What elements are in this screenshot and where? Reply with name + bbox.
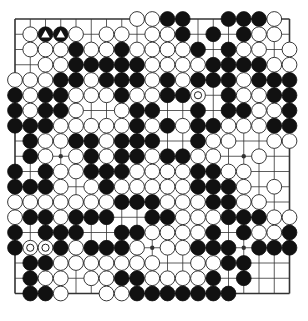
black-stone [53, 225, 68, 240]
black-stone [282, 103, 297, 118]
white-stone [282, 42, 297, 57]
white-stone [252, 149, 267, 164]
white-stone [145, 179, 160, 194]
star-point [242, 154, 246, 158]
white-stone [236, 88, 251, 103]
white-stone [206, 134, 221, 149]
white-stone [23, 195, 38, 210]
black-stone [114, 271, 129, 286]
black-stone [23, 210, 38, 225]
white-stone [145, 12, 160, 27]
black-stone [114, 195, 129, 210]
black-stone [145, 195, 160, 210]
black-stone [267, 73, 282, 88]
black-stone [38, 225, 53, 240]
white-stone [99, 118, 114, 133]
white-stone [38, 149, 53, 164]
white-stone [145, 57, 160, 72]
black-stone [8, 225, 23, 240]
black-stone [99, 57, 114, 72]
white-stone [267, 225, 282, 240]
white-stone [236, 195, 251, 210]
white-stone [99, 27, 114, 42]
white-stone [84, 195, 99, 210]
white-stone [69, 195, 84, 210]
white-stone [175, 57, 190, 72]
black-stone [191, 134, 206, 149]
black-stone [206, 286, 221, 301]
black-stone [206, 118, 221, 133]
white-stone [175, 73, 190, 88]
black-stone [99, 240, 114, 255]
black-stone [282, 118, 297, 133]
white-stone [145, 73, 160, 88]
black-stone [8, 103, 23, 118]
white-stone [8, 195, 23, 210]
white-stone [130, 164, 145, 179]
white-stone [252, 42, 267, 57]
black-stone [175, 27, 190, 42]
black-stone [252, 12, 267, 27]
white-stone [23, 73, 38, 88]
black-stone [221, 103, 236, 118]
black-stone [23, 256, 38, 271]
white-stone [130, 256, 145, 271]
white-stone [130, 179, 145, 194]
star-point [242, 246, 246, 250]
white-stone [8, 73, 23, 88]
white-stone [53, 57, 68, 72]
white-stone [84, 179, 99, 194]
white-stone [38, 134, 53, 149]
black-stone [130, 225, 145, 240]
white-stone [53, 256, 68, 271]
black-stone [130, 195, 145, 210]
black-stone [114, 42, 129, 57]
white-stone [236, 179, 251, 194]
white-stone [252, 27, 267, 42]
black-stone [236, 271, 251, 286]
white-stone [160, 42, 175, 57]
white-stone [160, 225, 175, 240]
white-stone [175, 240, 190, 255]
white-stone [191, 271, 206, 286]
black-stone [206, 240, 221, 255]
white-stone [160, 57, 175, 72]
white-stone [99, 256, 114, 271]
black-stone [23, 149, 38, 164]
black-stone [130, 286, 145, 301]
black-stone [160, 88, 175, 103]
black-stone [114, 149, 129, 164]
black-stone [114, 88, 129, 103]
black-stone [221, 57, 236, 72]
white-stone [206, 149, 221, 164]
white-stone [53, 118, 68, 133]
black-stone [160, 73, 175, 88]
black-stone [23, 118, 38, 133]
black-stone [206, 225, 221, 240]
black-stone [282, 88, 297, 103]
white-stone [38, 195, 53, 210]
black-stone [252, 57, 267, 72]
black-stone [99, 179, 114, 194]
black-stone [130, 271, 145, 286]
white-stone [23, 42, 38, 57]
white-stone [236, 164, 251, 179]
white-stone [53, 210, 68, 225]
white-stone [84, 42, 99, 57]
white-stone [53, 42, 68, 57]
black-stone [160, 118, 175, 133]
black-stone [53, 88, 68, 103]
black-stone [236, 27, 251, 42]
black-stone [160, 286, 175, 301]
white-stone [252, 225, 267, 240]
black-stone [191, 164, 206, 179]
black-stone [160, 210, 175, 225]
black-stone [267, 118, 282, 133]
white-stone [160, 164, 175, 179]
black-stone [191, 240, 206, 255]
black-stone [145, 134, 160, 149]
white-stone [38, 240, 53, 255]
black-stone [282, 240, 297, 255]
white-stone [114, 27, 129, 42]
white-stone [191, 149, 206, 164]
